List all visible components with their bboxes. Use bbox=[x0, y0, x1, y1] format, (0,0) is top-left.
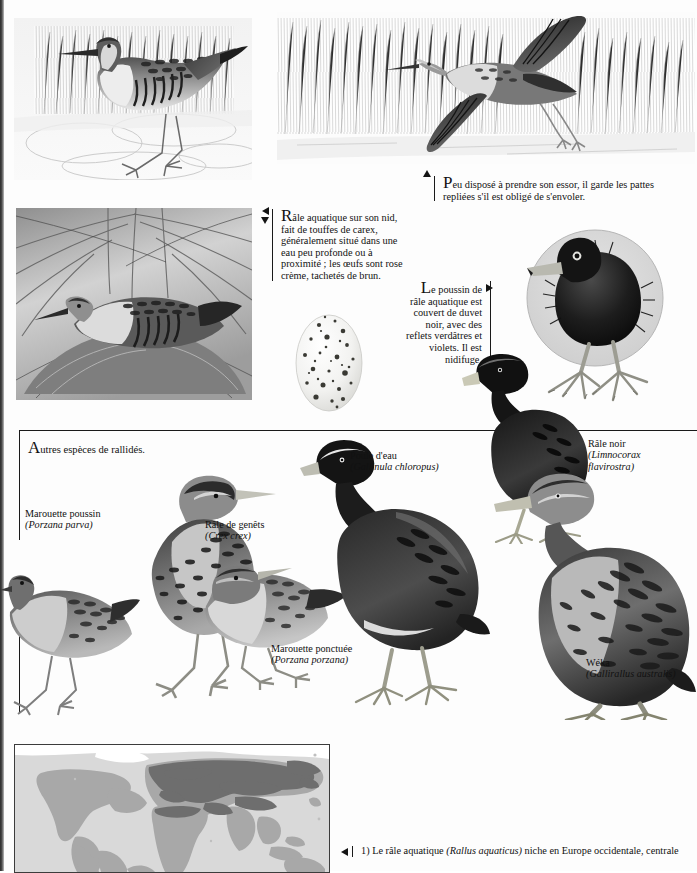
page-gutter bbox=[0, 0, 4, 871]
illustration-rail-walking bbox=[14, 18, 252, 180]
distribution-map bbox=[14, 744, 330, 873]
plate-bracket-top bbox=[19, 430, 697, 431]
illustration-porzana-parva bbox=[0, 556, 140, 716]
caption-chick: Le poussin de râle aquatique est couvert… bbox=[404, 280, 491, 365]
species-label-crex-crex: Râle de genêts (Crex crex) bbox=[205, 519, 315, 542]
footnote-text-after: niche en Europe occidentale, centrale bbox=[525, 845, 679, 856]
marker-triangle-down-nest bbox=[261, 217, 269, 224]
footnote-number: 1) bbox=[361, 845, 370, 856]
illustration-rail-in-flight bbox=[277, 12, 695, 164]
species-common-name: Wéka bbox=[586, 657, 610, 668]
footnote-latin-name: (Rallus aquaticus) bbox=[446, 845, 522, 856]
map-svg bbox=[15, 745, 329, 872]
caption-nest: Râle aquatique sur son nid, fait de touf… bbox=[272, 208, 411, 282]
illustration-rail-on-nest bbox=[16, 208, 252, 400]
species-label-gallirallus-australis: Wéka (Gallirallus australis) bbox=[586, 657, 696, 680]
marker-triangle-left-footnote bbox=[341, 848, 348, 856]
caption-nest-text: Râle aquatique sur son nid, fait de touf… bbox=[281, 212, 403, 281]
footnote-1: 1) Le râle aquatique (Rallus aquaticus) … bbox=[352, 845, 697, 857]
plate-bracket-left-upper bbox=[19, 430, 20, 540]
marker-triangle-up-flight bbox=[423, 170, 431, 177]
caption-flight-text: Peu disposé à prendre son essor, il gard… bbox=[443, 179, 654, 202]
species-common-name: Râle de genêts bbox=[205, 519, 264, 530]
illustration-egg bbox=[285, 303, 373, 415]
species-common-name: Râle noir bbox=[588, 438, 626, 449]
caption-flight: Peu disposé à prendre son essor, il gard… bbox=[434, 175, 675, 202]
species-latin-name: (Gallirallus australis) bbox=[586, 668, 696, 679]
species-label-limnocorax-flavirostra: Râle noir (Limnocorax flavirostra) bbox=[588, 438, 688, 472]
species-latin-name: (Porzana parva) bbox=[25, 519, 145, 530]
species-label-porzana-parva: Marouette poussin (Porzana parva) bbox=[25, 508, 145, 531]
species-common-name: Poule d'eau bbox=[350, 450, 397, 461]
illustration-gallirallus-australis bbox=[494, 470, 697, 720]
caption-chick-text: Le poussin de râle aquatique est couvert… bbox=[406, 284, 482, 365]
species-common-name: Marouette poussin bbox=[25, 508, 101, 519]
footnote-text-before: Le râle aquatique bbox=[372, 845, 443, 856]
species-latin-name: (Limnocorax flavirostra) bbox=[588, 449, 688, 472]
plate-title: Autres espèces de rallidés. bbox=[28, 438, 258, 458]
marker-triangle-left-nest bbox=[262, 207, 269, 215]
species-latin-name: (Crex crex) bbox=[205, 530, 315, 541]
